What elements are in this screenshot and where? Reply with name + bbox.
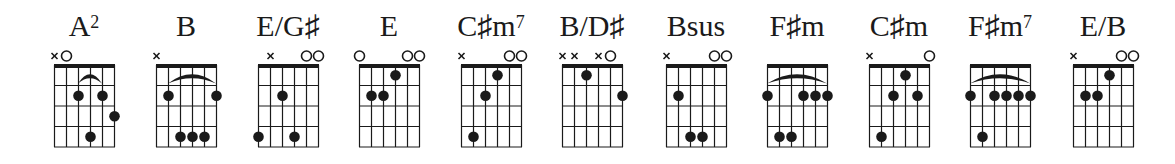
open-string-icon (710, 51, 720, 61)
open-string-icon (403, 51, 413, 61)
fretboard-grid (1053, 0, 1153, 164)
finger-dot-icon (175, 131, 186, 142)
finger-dot-icon (73, 90, 84, 101)
fretboard-grid (238, 0, 338, 164)
fretboard-grid (646, 0, 746, 164)
finger-dot-icon (85, 131, 96, 142)
finger-dot-icon (810, 90, 821, 101)
finger-dot-icon (480, 90, 491, 101)
muted-string-icon (154, 53, 160, 59)
muted-string-icon (459, 53, 465, 59)
barre-icon (970, 74, 1030, 83)
finger-dot-icon (97, 90, 108, 101)
finger-dot-icon (211, 90, 222, 101)
chord-diagram: A2 (34, 0, 134, 164)
finger-dot-icon (900, 70, 911, 81)
chord-diagram: F♯m7 (950, 0, 1050, 164)
finger-dot-icon (617, 90, 628, 101)
open-string-icon (606, 51, 616, 61)
finger-dot-icon (187, 131, 198, 142)
finger-dot-icon (1025, 90, 1036, 101)
finger-dot-icon (673, 90, 684, 101)
muted-string-icon (572, 53, 578, 59)
muted-string-icon (268, 53, 274, 59)
chord-diagram: B/D♯ (542, 0, 642, 164)
finger-dot-icon (581, 70, 592, 81)
muted-string-icon (596, 53, 602, 59)
finger-dot-icon (1104, 70, 1115, 81)
finger-dot-icon (822, 90, 833, 101)
finger-dot-icon (378, 90, 389, 101)
finger-dot-icon (888, 90, 899, 101)
chord-diagram: C♯m7 (441, 0, 541, 164)
open-string-icon (415, 51, 425, 61)
open-string-icon (925, 51, 935, 61)
finger-dot-icon (989, 90, 1000, 101)
finger-dot-icon (468, 131, 479, 142)
finger-dot-icon (366, 90, 377, 101)
finger-dot-icon (492, 70, 503, 81)
finger-dot-icon (277, 90, 288, 101)
finger-dot-icon (390, 70, 401, 81)
open-string-icon (62, 51, 72, 61)
open-string-icon (722, 51, 732, 61)
finger-dot-icon (1092, 90, 1103, 101)
muted-string-icon (867, 53, 873, 59)
fretboard-grid (339, 0, 439, 164)
fretboard-grid (950, 0, 1050, 164)
finger-dot-icon (253, 131, 264, 142)
open-string-icon (1129, 51, 1139, 61)
muted-string-icon (52, 53, 58, 59)
chord-diagram: E/G♯ (238, 0, 338, 164)
finger-dot-icon (199, 131, 210, 142)
chord-diagram: F♯m (747, 0, 847, 164)
finger-dot-icon (1001, 90, 1012, 101)
finger-dot-icon (977, 131, 988, 142)
fretboard-grid (34, 0, 134, 164)
finger-dot-icon (876, 131, 887, 142)
finger-dot-icon (697, 131, 708, 142)
fretboard-grid (542, 0, 642, 164)
open-string-icon (302, 51, 312, 61)
open-string-icon (517, 51, 527, 61)
finger-dot-icon (774, 131, 785, 142)
fretboard-grid (747, 0, 847, 164)
finger-dot-icon (109, 111, 120, 122)
muted-string-icon (664, 53, 670, 59)
chord-diagram: Bsus (646, 0, 746, 164)
chord-diagram: E/B (1053, 0, 1153, 164)
fretboard-grid (441, 0, 541, 164)
finger-dot-icon (163, 90, 174, 101)
fretboard-grid (849, 0, 949, 164)
finger-dot-icon (762, 90, 773, 101)
finger-dot-icon (685, 131, 696, 142)
fretboard-grid (136, 0, 236, 164)
chord-diagram: C♯m (849, 0, 949, 164)
finger-dot-icon (912, 90, 923, 101)
open-string-icon (1117, 51, 1127, 61)
muted-string-icon (560, 53, 566, 59)
finger-dot-icon (1013, 90, 1024, 101)
chord-diagram: B (136, 0, 236, 164)
finger-dot-icon (289, 131, 300, 142)
finger-dot-icon (798, 90, 809, 101)
open-string-icon (314, 51, 324, 61)
open-string-icon (505, 51, 515, 61)
open-string-icon (355, 51, 365, 61)
barre-icon (767, 74, 827, 83)
finger-dot-icon (965, 90, 976, 101)
chord-diagram: E (339, 0, 439, 164)
muted-string-icon (1071, 53, 1077, 59)
finger-dot-icon (786, 131, 797, 142)
finger-dot-icon (1080, 90, 1091, 101)
